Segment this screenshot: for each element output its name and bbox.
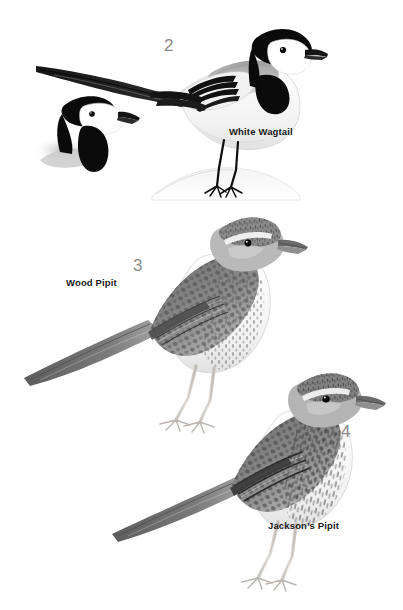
species-label-white-wagtail: White Wagtail <box>229 127 293 137</box>
species-label-jacksons-pipit: Jackson’s Pipit <box>268 521 339 531</box>
species-numeral-2: 2 <box>164 37 173 54</box>
species-label-wood-pipit: Wood Pipit <box>66 278 117 288</box>
plate-artwork <box>0 0 403 610</box>
species-numeral-4: 4 <box>341 423 350 440</box>
species-numeral-3: 3 <box>133 257 142 274</box>
field-guide-plate: White Wagtail 2 Wood Pipit 3 Jackson’s P… <box>0 0 403 610</box>
